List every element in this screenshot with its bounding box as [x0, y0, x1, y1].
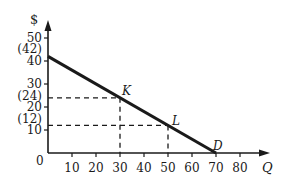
- x-tick-label-10: 10: [64, 161, 79, 175]
- origin-label: 0: [36, 154, 44, 168]
- x-axis-arrow-icon: [259, 150, 270, 157]
- point-label-k: K: [121, 84, 132, 98]
- point-label-d: D: [212, 139, 223, 153]
- x-tick-label-40: 40: [136, 161, 151, 175]
- x-tick-label-50: 50: [160, 161, 175, 175]
- guide-lines: [48, 98, 168, 153]
- x-axis-title: Q: [262, 160, 273, 175]
- y-axis-title: $: [30, 12, 38, 27]
- x-tick-label-30: 30: [112, 161, 127, 175]
- y-axis-arrow-icon: [45, 20, 52, 31]
- x-tick-label-20: 20: [88, 161, 103, 175]
- point-label-l: L: [171, 114, 180, 128]
- x-tick-label-80: 80: [232, 161, 247, 175]
- demand-chart: $ 50 (42) 40 30 (24) 20 (12) 10 0 10 20 …: [0, 0, 285, 185]
- y-tick-label-10: 10: [27, 123, 42, 137]
- demand-curve: [48, 56, 216, 153]
- y-tick-label-40: 40: [27, 54, 42, 68]
- x-tick-label-70: 70: [208, 161, 223, 175]
- x-tick-label-60: 60: [184, 161, 199, 175]
